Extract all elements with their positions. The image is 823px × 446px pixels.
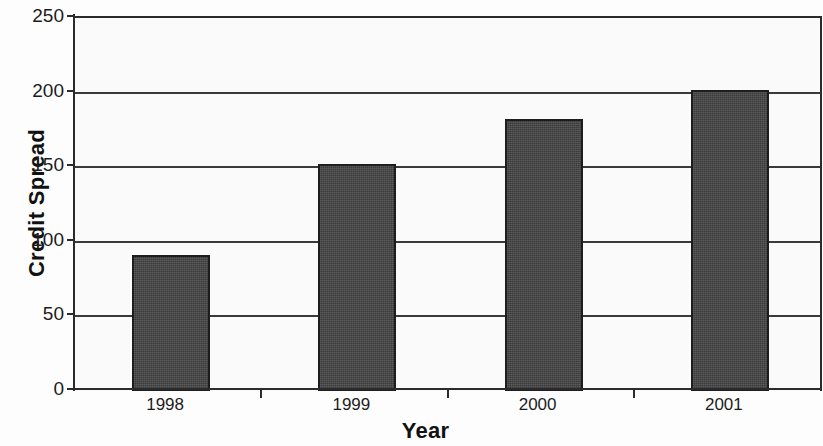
y-axis-tick-labels: 050100150200250 [0,0,64,446]
y-axis-tick-label: 50 [8,304,64,323]
x-axis-tick [447,389,449,398]
y-axis-tick-label: 0 [8,379,64,398]
y-axis-tick-label: 200 [8,81,64,100]
bar [132,255,210,391]
bar [505,119,583,391]
y-axis-tick-label: 150 [8,155,64,174]
y-axis-tick-label: 250 [8,6,64,25]
plot-area [75,16,822,391]
x-axis-tick-label: 1999 [291,396,411,413]
x-axis-tick-label: 2000 [478,396,598,413]
x-axis-title: Year [0,418,823,444]
bar [318,164,396,391]
y-axis-tick-label: 100 [8,230,64,249]
bar [691,90,769,391]
x-axis-tick [260,389,262,398]
x-axis-tick-label: 2001 [664,396,784,413]
chart-figure: Credit Spread 050100150200250 1998199920… [0,0,823,446]
x-axis-tick-label: 1998 [105,396,225,413]
x-axis-title-text: Year [402,418,450,443]
x-axis-tick [633,389,635,398]
